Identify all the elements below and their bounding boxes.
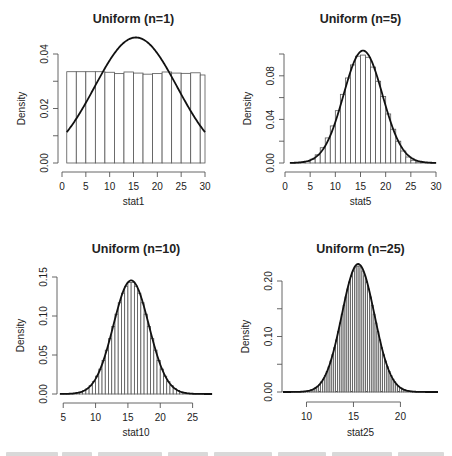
x-tick-label: 0 [59, 181, 65, 192]
histogram-bar [181, 73, 191, 163]
x-tick-label: 20 [155, 412, 167, 423]
x-axis-label: stat10 [122, 427, 150, 438]
y-axis: 0.000.100.20Density [240, 271, 282, 402]
x-tick-label: 25 [187, 412, 199, 423]
x-axis: 510152025stat10 [60, 403, 198, 438]
histogram-bar [147, 326, 150, 394]
histogram-bar [371, 67, 376, 163]
x-tick-label: 20 [380, 181, 392, 192]
y-tick-label: 0.08 [265, 66, 276, 86]
histogram-bar [381, 97, 386, 163]
y-tick-label: 0.04 [265, 109, 276, 129]
histogram-bar [67, 72, 77, 163]
histogram-bar [355, 56, 360, 163]
x-tick-label: 30 [199, 181, 211, 192]
histogram-bar [105, 350, 108, 394]
y-tick-label: 0.00 [39, 153, 50, 173]
histogram-bar [151, 339, 154, 394]
chart-title: Uniform (n=10) [92, 242, 181, 256]
x-tick-label: 0 [282, 181, 288, 192]
histogram-bar [345, 78, 350, 163]
histogram-bar [154, 350, 157, 394]
x-axis-label: stat1 [123, 196, 145, 207]
histogram-bar [134, 286, 137, 394]
histogram-bar [125, 286, 128, 394]
y-axis: 0.000.040.08Density [242, 54, 284, 173]
histogram-bar [86, 72, 96, 163]
x-tick-label: 10 [104, 181, 116, 192]
y-tick-label: 0.10 [38, 306, 49, 326]
histogram-bar [153, 74, 163, 163]
histogram-bar [200, 75, 205, 163]
chart-title: Uniform (n=1) [93, 12, 175, 26]
y-axis-label: Density [15, 319, 26, 352]
y-tick-label: 0.05 [38, 345, 49, 365]
x-axis: 051015202530stat5 [282, 172, 442, 207]
histogram-panel-4: Uniform (n=25)0.000.100.20Density101520s… [240, 242, 438, 438]
histogram-bar [109, 339, 112, 394]
histogram-bar [124, 72, 134, 163]
histogram-bars [290, 55, 436, 163]
y-tick-label: 0.00 [265, 153, 276, 173]
x-tick-label: 15 [122, 412, 134, 423]
y-tick-label: 0.10 [263, 326, 274, 346]
x-tick-label: 15 [355, 181, 367, 192]
x-tick-label: 25 [176, 181, 188, 192]
y-tick-label: 0.15 [38, 267, 49, 287]
histogram-bar [162, 72, 172, 163]
y-tick-label: 0.00 [38, 384, 49, 404]
y-tick-label: 0.00 [263, 382, 274, 402]
histogram-bar [350, 65, 355, 163]
histogram-panel-2: Uniform (n=5)0.000.040.08Density05101520… [242, 12, 442, 207]
histogram-bars [67, 72, 205, 163]
x-tick-label: 5 [83, 181, 89, 192]
histogram-bar [114, 74, 124, 163]
x-tick-label: 15 [348, 411, 360, 422]
x-tick-label: 10 [330, 181, 342, 192]
y-axis-label: Density [240, 320, 251, 353]
y-axis-label: Density [16, 92, 27, 125]
histogram-bar [144, 314, 147, 394]
x-tick-label: 20 [395, 411, 407, 422]
histogram-bars [283, 266, 437, 392]
histogram-bar [366, 57, 371, 163]
y-axis-label: Density [242, 92, 253, 125]
y-axis: 0.000.050.100.15Density [15, 267, 57, 404]
chart-title: Uniform (n=5) [320, 12, 402, 26]
x-axis: 101520stat25 [301, 402, 407, 438]
histogram-panel-3: Uniform (n=10)0.000.050.100.15Density510… [15, 242, 212, 438]
x-tick-label: 15 [128, 181, 140, 192]
x-tick-label: 5 [307, 181, 313, 192]
x-axis-label: stat25 [347, 427, 375, 438]
histogram-bar [112, 326, 115, 394]
histogram-bar [95, 72, 105, 163]
histogram-bar [115, 314, 118, 394]
histogram-bar [361, 55, 366, 163]
y-tick-label: 0.20 [263, 271, 274, 291]
x-tick-label: 20 [152, 181, 164, 192]
histogram-bar [105, 72, 115, 163]
y-tick-label: 0.02 [39, 98, 50, 118]
histogram-bar [131, 283, 134, 394]
histogram-bar [128, 283, 131, 394]
x-tick-label: 30 [430, 181, 442, 192]
x-tick-label: 5 [60, 412, 66, 423]
histogram-bar [143, 74, 153, 163]
histogram-panel-1: Uniform (n=1)0.000.020.04Density05101520… [16, 12, 211, 207]
x-axis: 051015202530stat1 [59, 172, 211, 207]
histogram-bar [121, 293, 124, 394]
histogram-bar [141, 303, 144, 394]
clipped-caption-line [0, 450, 452, 456]
histogram-bar [134, 73, 144, 163]
histogram-bar [138, 293, 141, 394]
y-tick-label: 0.04 [39, 44, 50, 64]
x-tick-label: 10 [90, 412, 102, 423]
histogram-figure: Uniform (n=1)0.000.020.04Density05101520… [0, 0, 452, 456]
x-tick-label: 25 [405, 181, 417, 192]
chart-title: Uniform (n=25) [316, 242, 405, 256]
y-axis: 0.000.020.04Density [16, 44, 58, 173]
x-axis-label: stat5 [350, 196, 372, 207]
histogram-bar [118, 303, 121, 394]
histogram-bars [60, 283, 212, 394]
x-tick-label: 10 [301, 411, 313, 422]
